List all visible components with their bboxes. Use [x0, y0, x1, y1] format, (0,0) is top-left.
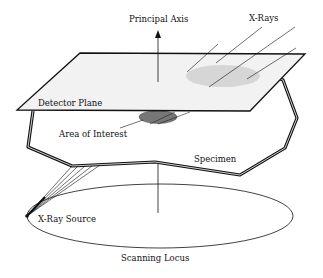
label-area-of-interest: Area of Interest — [58, 129, 128, 139]
x-ray-projection — [186, 65, 260, 87]
label-detector-plane: Detector Plane — [38, 98, 102, 108]
tomosynthesis-diagram: Principal Axis X-Rays Detector Plane Are… — [0, 0, 323, 278]
label-scanning-locus: Scanning Locus — [121, 253, 189, 263]
label-principal-axis: Principal Axis — [129, 14, 188, 24]
x-ray-source-dot — [25, 214, 29, 218]
source-rays — [27, 165, 100, 216]
principal-axis-arrowhead — [155, 30, 161, 38]
label-specimen: Specimen — [194, 154, 237, 164]
area-of-interest-ellipse — [139, 111, 177, 124]
label-x-ray-source: X-Ray Source — [38, 214, 96, 224]
label-x-rays: X-Rays — [249, 13, 278, 23]
